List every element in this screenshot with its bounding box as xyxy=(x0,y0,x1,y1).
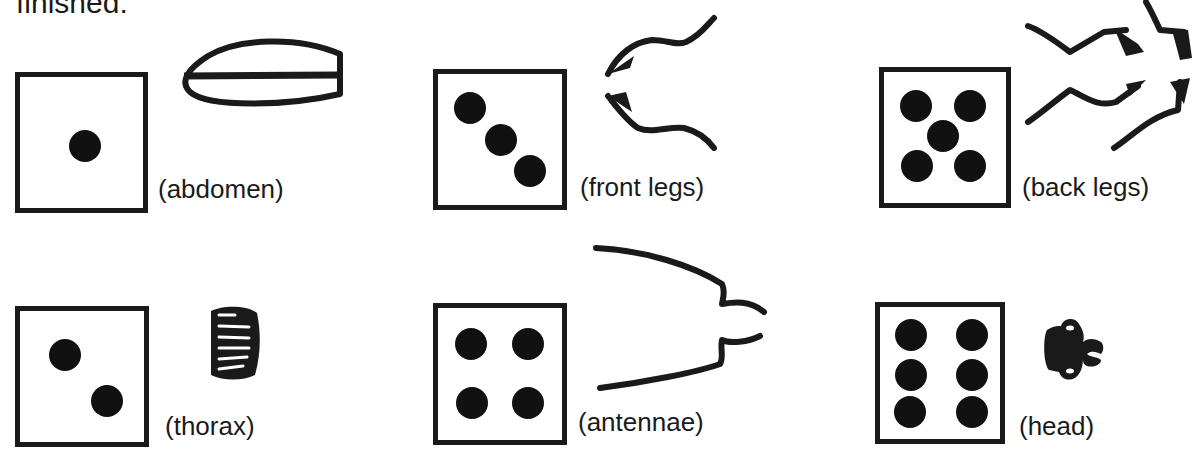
heading-fragment: finished: xyxy=(16,0,128,20)
die-pip xyxy=(91,385,123,417)
die-pip xyxy=(895,319,927,351)
die-pip xyxy=(455,328,487,360)
beetle-front-legs-icon xyxy=(604,16,720,152)
die-pip xyxy=(514,155,546,187)
label-abdomen: (abdomen) xyxy=(158,174,284,204)
beetle-back-legs-icon xyxy=(1026,0,1194,154)
die-pip xyxy=(49,339,81,371)
die-pip xyxy=(956,319,988,351)
die-pip xyxy=(956,396,988,428)
die-face-5 xyxy=(879,67,1011,208)
die-face-6 xyxy=(875,302,1005,444)
die-pip xyxy=(512,387,544,419)
die-pip xyxy=(901,150,933,182)
die-pip xyxy=(894,396,926,428)
die-pip xyxy=(456,387,488,419)
beetle-antennae-icon xyxy=(594,244,770,394)
die-pip xyxy=(956,359,988,391)
label-head: (head) xyxy=(1019,411,1094,441)
label-back-legs: (back legs) xyxy=(1022,172,1149,202)
die-pip xyxy=(927,120,959,152)
die-pip xyxy=(69,130,101,162)
beetle-head-icon xyxy=(1043,316,1105,380)
label-front-legs: (front legs) xyxy=(580,172,704,202)
beetle-thorax-icon xyxy=(209,305,261,381)
beetle-abdomen-icon xyxy=(178,42,344,108)
die-face-1 xyxy=(15,72,148,213)
die-face-4 xyxy=(433,303,567,445)
die-pip xyxy=(900,90,932,122)
die-face-3 xyxy=(433,69,567,210)
die-pip xyxy=(954,150,986,182)
die-pip xyxy=(512,328,544,360)
die-pip xyxy=(485,124,517,156)
die-pip xyxy=(895,359,927,391)
die-face-2 xyxy=(15,306,149,447)
label-antennae: (antennae) xyxy=(578,407,704,437)
label-thorax: (thorax) xyxy=(165,411,255,441)
die-pip xyxy=(954,90,986,122)
die-pip xyxy=(454,92,486,124)
